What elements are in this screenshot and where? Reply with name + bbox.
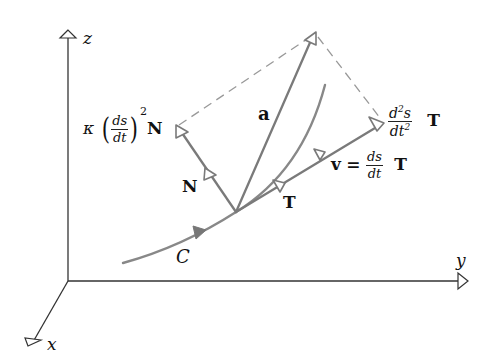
curve-direction-arrow-icon [193,226,206,239]
velocity-symbol: v [331,154,341,174]
x-axis [33,281,68,342]
ds-dt-fraction: dsdt [111,114,128,144]
x-axis-arrowhead-icon [25,338,41,346]
right-paren: ) [130,114,138,144]
normal-unit-label: N [182,178,198,195]
velocity-ds-dt-fraction: dsdt [366,150,383,180]
z-axis-label: z [83,30,92,47]
y-axis-arrowhead-icon [458,273,468,289]
velocity-tangent-symbol: T [394,154,407,174]
velocity-label: v = dsdt T [331,150,407,180]
tangent-vector-symbol: T [427,110,440,130]
y-axis-label: y [456,252,466,269]
acceleration-label: a [258,105,270,123]
kappa-symbol: κ [83,118,94,138]
diagram-canvas: z y x C a N T κ (dsdt)2N d2s dt2 T v = d… [0,0,495,356]
normal-component-arrowhead-icon [176,125,188,138]
tangent-unit-label: T [283,194,296,211]
acceleration-vector [236,38,312,212]
normal-component-label: κ (dsdt)2N [83,114,163,144]
tangential-component-arrowhead-icon [369,117,384,131]
exponent: 2 [140,105,147,118]
acceleration-arrowhead-icon [305,32,316,45]
diagram-graphics [0,0,495,356]
normal-vector-symbol: N [147,118,163,138]
d2s-dt2-fraction: d2s dt2 [388,105,412,139]
tangential-component-label: d2s dt2 T [388,105,440,139]
curve-c [123,85,325,263]
curve-label: C [176,248,190,266]
equals-sign: = [346,154,360,174]
z-axis-arrowhead-icon [60,30,76,38]
tangent-unit-arrowhead-icon [273,180,285,192]
left-paren: ( [101,114,109,144]
x-axis-label: x [47,336,57,353]
